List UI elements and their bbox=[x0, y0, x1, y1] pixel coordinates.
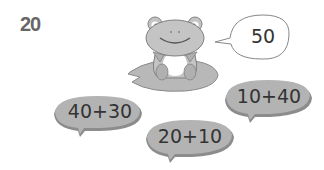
lily-pad-expression: 20+10 bbox=[150, 125, 230, 147]
speech-bubble-value: 50 bbox=[243, 25, 283, 47]
lily-pad-expression: 40+30 bbox=[60, 100, 140, 122]
lily-pad-expression: 10+40 bbox=[229, 85, 309, 107]
frog-icon bbox=[146, 17, 204, 80]
